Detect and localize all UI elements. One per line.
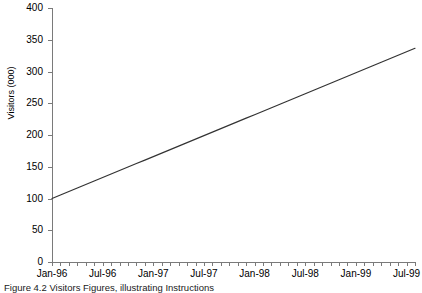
y-tick-label: 350	[26, 35, 43, 45]
x-tick-label: Jul-98	[292, 268, 319, 279]
x-tick-label: Jan-97	[138, 268, 169, 279]
x-tick	[229, 262, 230, 266]
y-tick-label: 100	[26, 194, 43, 204]
x-tick	[238, 262, 239, 266]
y-tick-label: 250	[26, 98, 43, 108]
x-tick	[415, 262, 416, 266]
x-tick	[204, 262, 205, 266]
x-tick	[103, 262, 104, 266]
x-tick	[331, 262, 332, 266]
x-tick	[111, 262, 112, 266]
x-tick	[187, 262, 188, 266]
x-tick	[271, 262, 272, 266]
x-tick	[170, 262, 171, 266]
x-tick	[221, 262, 222, 266]
x-tick	[94, 262, 95, 266]
x-tick	[322, 262, 323, 266]
x-tick	[120, 262, 121, 266]
x-tick	[255, 262, 256, 266]
x-tick	[52, 262, 53, 266]
x-tick	[246, 262, 247, 266]
y-tick-label: 0	[37, 257, 43, 267]
x-tick-label: Jan-98	[239, 268, 270, 279]
x-tick	[314, 262, 315, 266]
visitors-line-series	[52, 8, 416, 262]
x-tick	[339, 262, 340, 266]
x-tick	[263, 262, 264, 266]
x-tick	[196, 262, 197, 266]
x-tick	[153, 262, 154, 266]
x-tick	[398, 262, 399, 266]
x-tick	[347, 262, 348, 266]
x-tick	[381, 262, 382, 266]
plot-area: 050100150200250300350400 Jan-96Jul-96Jan…	[52, 8, 415, 262]
y-tick-label: 50	[32, 225, 43, 235]
x-tick	[69, 262, 70, 266]
x-tick	[356, 262, 357, 266]
x-tick	[280, 262, 281, 266]
x-axis-line	[52, 262, 416, 263]
x-tick	[162, 262, 163, 266]
x-tick-label: Jan-96	[37, 268, 68, 279]
x-tick	[373, 262, 374, 266]
y-tick-label: 150	[26, 162, 43, 172]
x-tick-label: Jul-96	[89, 268, 116, 279]
y-tick-label: 200	[26, 130, 43, 140]
y-axis-title: Visitors (000)	[6, 38, 16, 148]
x-tick	[212, 262, 213, 266]
figure-caption: Figure 4.2 Visitors Figures, illustratin…	[4, 282, 214, 293]
x-tick	[136, 262, 137, 266]
x-tick	[145, 262, 146, 266]
x-tick	[77, 262, 78, 266]
x-tick-label: Jul-97	[190, 268, 217, 279]
x-tick	[364, 262, 365, 266]
x-tick	[288, 262, 289, 266]
x-tick	[305, 262, 306, 266]
x-tick	[86, 262, 87, 266]
x-tick	[407, 262, 408, 266]
y-tick-label: 300	[26, 67, 43, 77]
x-tick	[60, 262, 61, 266]
x-tick	[128, 262, 129, 266]
y-tick-label: 400	[26, 3, 43, 13]
x-tick-label: Jan-99	[341, 268, 372, 279]
series-polyline	[52, 48, 415, 198]
x-tick	[297, 262, 298, 266]
x-tick	[179, 262, 180, 266]
x-tick	[390, 262, 391, 266]
x-tick-label: Jul-99	[393, 268, 420, 279]
